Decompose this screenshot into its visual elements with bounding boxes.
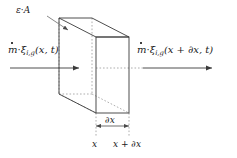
- edge-top-diagonal-right: [92, 18, 129, 37]
- figure-canvas: [0, 0, 237, 158]
- box-visible-edges: [59, 18, 129, 113]
- xi-subscript-out: i,g: [155, 49, 164, 57]
- edge-bottom-diagonal-left-visible: [59, 94, 96, 113]
- outflow-argument: (x + ∂x, t): [164, 44, 213, 55]
- mdot-symbol-out: m: [137, 45, 146, 55]
- hidden-edge-bottom-diagonal-right: [92, 94, 129, 113]
- control-volume-figure: ε·A m·ξi,g(x, t) m·ξi,g(x + ∂x, t) ∂x x …: [0, 0, 237, 158]
- mdot-symbol-in: m: [8, 45, 17, 55]
- front-face: [96, 37, 129, 113]
- dx-dimension-label: ∂x: [105, 116, 115, 125]
- inflow-argument: (x, t): [35, 44, 59, 55]
- x-tick-label-right: x + ∂x: [113, 140, 141, 149]
- x-tick-label-left: x: [92, 140, 97, 149]
- inflow-label: m·ξi,g(x, t): [8, 45, 59, 57]
- xi-subscript-in: i,g: [26, 49, 35, 57]
- area-label: ε·A: [16, 6, 30, 15]
- box-hidden-edges: [59, 18, 143, 113]
- area-symbol: A: [24, 5, 31, 15]
- outflow-label: m·ξi,g(x + ∂x, t): [137, 45, 213, 57]
